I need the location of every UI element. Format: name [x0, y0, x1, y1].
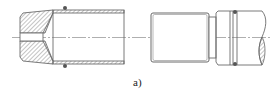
shaft-break-hatch [259, 37, 265, 65]
nozzle-bore [20, 33, 43, 41]
groove-oring-bottom-icon [233, 62, 237, 66]
neck [209, 17, 216, 58]
nozzle-section-bottom [20, 41, 53, 64]
left-sectioned-nozzle [20, 6, 124, 68]
figure-label: a) [133, 76, 142, 88]
technical-drawing [0, 0, 278, 105]
nozzle-section-top [20, 10, 53, 33]
oring-bottom-icon [63, 64, 67, 68]
tube-wall-top [53, 10, 124, 13]
right-threaded-fitting [151, 10, 266, 66]
tube-wall-bottom [53, 61, 124, 64]
groove-oring-top-icon [233, 10, 237, 14]
threaded-body [151, 13, 209, 62]
collar [216, 11, 262, 65]
oring-top-icon [63, 6, 67, 10]
